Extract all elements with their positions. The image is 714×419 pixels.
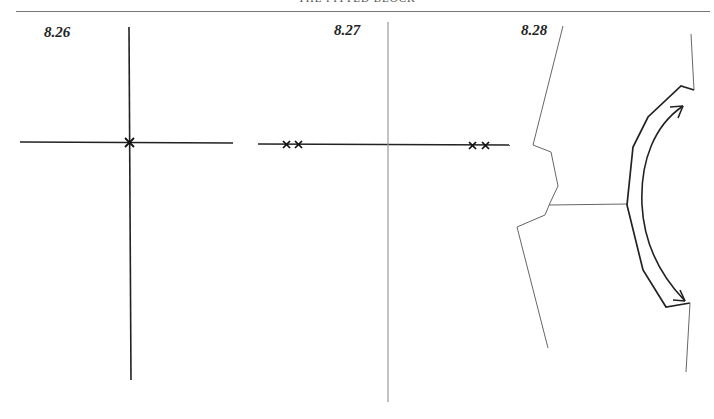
left-block-outline: [517, 26, 563, 348]
right-block-thin-bottom: [686, 303, 690, 372]
figure-8-28: [517, 26, 694, 372]
right-block-outline: [627, 86, 694, 307]
right-block-thin-top: [691, 34, 694, 90]
figures-canvas: [0, 0, 714, 419]
y-axis: [129, 27, 131, 380]
x-axis: [20, 142, 233, 143]
figure-8-27: [258, 22, 510, 402]
joint-line: [549, 204, 628, 205]
curved-arrow: [642, 106, 685, 301]
figure-8-26: [20, 27, 233, 380]
